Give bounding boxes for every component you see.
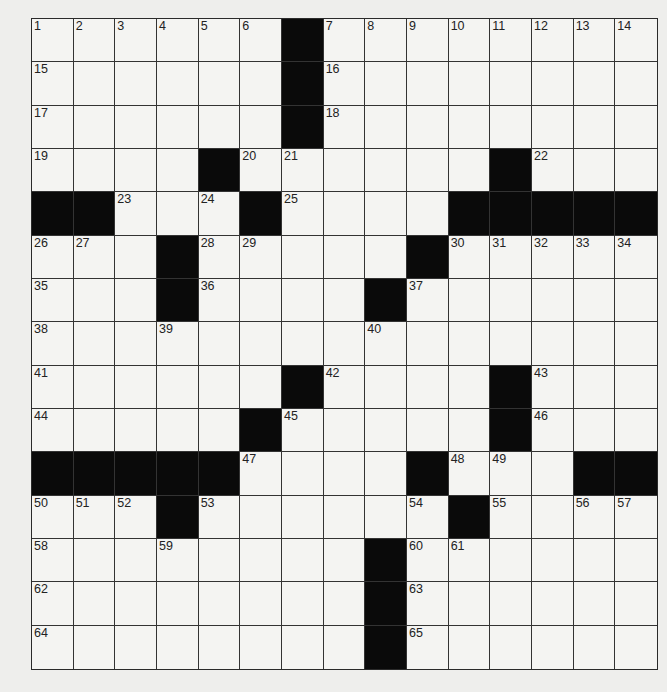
grid-cell[interactable]: 24 [199,192,241,235]
grid-cell[interactable] [74,106,116,149]
grid-cell[interactable] [324,452,366,495]
grid-cell[interactable] [74,409,116,452]
grid-cell[interactable]: 38 [32,322,74,365]
grid-cell[interactable] [615,582,657,625]
grid-cell[interactable]: 36 [199,279,241,322]
grid-cell[interactable] [240,279,282,322]
grid-cell[interactable]: 58 [32,539,74,582]
grid-cell[interactable] [574,279,616,322]
grid-cell[interactable]: 16 [324,62,366,105]
grid-cell[interactable]: 53 [199,496,241,539]
grid-cell[interactable] [240,106,282,149]
grid-cell[interactable] [115,279,157,322]
grid-cell[interactable] [615,322,657,365]
grid-cell[interactable] [240,62,282,105]
grid-cell[interactable] [365,496,407,539]
grid-cell[interactable] [74,322,116,365]
grid-cell[interactable] [324,626,366,669]
grid-cell[interactable] [532,582,574,625]
grid-cell[interactable]: 10 [449,19,491,62]
grid-cell[interactable]: 40 [365,322,407,365]
grid-cell[interactable] [282,626,324,669]
grid-cell[interactable] [115,149,157,192]
grid-cell[interactable]: 26 [32,236,74,279]
grid-cell[interactable] [532,452,574,495]
grid-cell[interactable] [449,626,491,669]
grid-cell[interactable] [115,106,157,149]
grid-cell[interactable]: 28 [199,236,241,279]
grid-cell[interactable] [532,496,574,539]
grid-cell[interactable] [115,366,157,409]
grid-cell[interactable] [574,62,616,105]
grid-cell[interactable] [365,366,407,409]
grid-cell[interactable] [574,149,616,192]
grid-cell[interactable]: 65 [407,626,449,669]
grid-cell[interactable]: 31 [490,236,532,279]
grid-cell[interactable] [324,322,366,365]
grid-cell[interactable] [615,409,657,452]
grid-cell[interactable] [490,626,532,669]
grid-cell[interactable]: 50 [32,496,74,539]
grid-cell[interactable]: 32 [532,236,574,279]
grid-cell[interactable]: 54 [407,496,449,539]
grid-cell[interactable]: 62 [32,582,74,625]
grid-cell[interactable]: 25 [282,192,324,235]
grid-cell[interactable]: 12 [532,19,574,62]
grid-cell[interactable] [157,366,199,409]
grid-cell[interactable] [199,62,241,105]
grid-cell[interactable] [240,322,282,365]
grid-cell[interactable]: 35 [32,279,74,322]
grid-cell[interactable] [490,322,532,365]
grid-cell[interactable] [407,409,449,452]
grid-cell[interactable]: 60 [407,539,449,582]
grid-cell[interactable] [407,106,449,149]
grid-cell[interactable] [449,62,491,105]
grid-cell[interactable] [282,539,324,582]
grid-cell[interactable] [407,192,449,235]
grid-cell[interactable] [324,149,366,192]
grid-cell[interactable]: 22 [532,149,574,192]
grid-cell[interactable] [199,366,241,409]
grid-cell[interactable]: 17 [32,106,74,149]
grid-cell[interactable] [199,582,241,625]
grid-cell[interactable]: 30 [449,236,491,279]
grid-cell[interactable]: 18 [324,106,366,149]
grid-cell[interactable]: 5 [199,19,241,62]
grid-cell[interactable] [74,62,116,105]
grid-cell[interactable] [407,366,449,409]
grid-cell[interactable] [324,496,366,539]
grid-cell[interactable] [490,539,532,582]
grid-cell[interactable] [532,106,574,149]
grid-cell[interactable]: 27 [74,236,116,279]
grid-cell[interactable] [615,539,657,582]
grid-cell[interactable] [115,582,157,625]
grid-cell[interactable]: 43 [532,366,574,409]
grid-cell[interactable]: 20 [240,149,282,192]
grid-cell[interactable] [324,192,366,235]
grid-cell[interactable]: 7 [324,19,366,62]
grid-cell[interactable] [74,626,116,669]
grid-cell[interactable] [324,409,366,452]
grid-cell[interactable] [115,322,157,365]
grid-cell[interactable] [449,322,491,365]
grid-cell[interactable]: 8 [365,19,407,62]
grid-cell[interactable] [365,192,407,235]
grid-cell[interactable]: 14 [615,19,657,62]
grid-cell[interactable] [365,409,407,452]
grid-cell[interactable] [574,322,616,365]
grid-cell[interactable]: 51 [74,496,116,539]
grid-cell[interactable] [449,409,491,452]
grid-cell[interactable] [199,106,241,149]
grid-cell[interactable] [574,539,616,582]
grid-cell[interactable] [449,149,491,192]
grid-cell[interactable] [282,236,324,279]
grid-cell[interactable] [449,279,491,322]
grid-cell[interactable]: 64 [32,626,74,669]
grid-cell[interactable] [615,366,657,409]
grid-cell[interactable] [157,149,199,192]
grid-cell[interactable] [74,539,116,582]
grid-cell[interactable] [282,452,324,495]
grid-cell[interactable] [615,149,657,192]
grid-cell[interactable]: 21 [282,149,324,192]
grid-cell[interactable] [532,322,574,365]
